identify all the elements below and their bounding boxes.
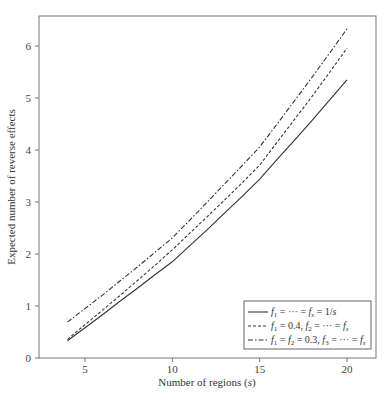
x-tick-label: 5 bbox=[82, 363, 88, 375]
y-tick-label: 0 bbox=[26, 352, 32, 364]
series-line-dashed bbox=[68, 48, 348, 339]
x-axis-label: Number of regions (s) bbox=[158, 376, 256, 389]
x-tick-label: 20 bbox=[342, 363, 354, 375]
x-tick-label: 10 bbox=[167, 363, 179, 375]
y-tick-label: 6 bbox=[26, 40, 32, 52]
legend: f1 = ··· = fs = 1/s f1 = 0.4, f2 = ··· =… bbox=[244, 301, 371, 349]
y-axis: 0123456 bbox=[26, 40, 40, 364]
y-axis-label: Expected number of reverse effects bbox=[5, 109, 17, 265]
series-lines bbox=[68, 29, 348, 341]
series-line-dashdot bbox=[68, 29, 348, 322]
y-tick-label: 2 bbox=[26, 248, 32, 260]
x-axis: 5101520 bbox=[82, 358, 353, 375]
y-tick-label: 1 bbox=[26, 300, 32, 312]
reverse-effects-chart: 0123456 5101520 Number of regions (s) Ex… bbox=[0, 0, 389, 400]
y-tick-label: 3 bbox=[26, 196, 32, 208]
y-tick-label: 4 bbox=[26, 144, 32, 156]
x-tick-label: 15 bbox=[254, 363, 266, 375]
y-tick-label: 5 bbox=[26, 92, 32, 104]
